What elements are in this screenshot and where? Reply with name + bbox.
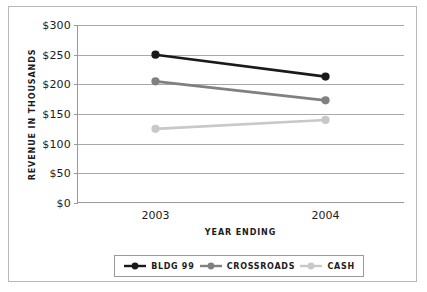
series-crossroads: [151, 77, 329, 104]
y-axis-tick-label: $100: [42, 137, 71, 150]
y-axis-tick-label: $50: [49, 167, 71, 180]
series-cash: [151, 116, 329, 133]
data-point: [151, 51, 159, 59]
series-bldg-99: [151, 51, 329, 81]
legend-marker-icon: [299, 261, 323, 271]
chart-legend: BLDG 99CROSSROADSCASH: [114, 255, 364, 277]
x-axis-tick-label: 2004: [312, 209, 340, 222]
data-point: [151, 125, 159, 133]
x-axis-title: YEAR ENDING: [77, 228, 404, 237]
legend-marker-icon: [199, 261, 223, 271]
data-point: [151, 77, 159, 85]
y-axis-title: REVENUE IN THOUSANDS: [26, 25, 40, 203]
y-axis-tick-label: $200: [42, 78, 71, 91]
y-axis-title-text: REVENUE IN THOUSANDS: [29, 48, 38, 180]
data-point: [321, 73, 329, 81]
series-plot: [77, 25, 404, 203]
y-axis-tick-label: $250: [42, 48, 71, 61]
chart-frame: REVENUE IN THOUSANDS $300$250$200$150$10…: [8, 6, 417, 282]
y-axis-tick: [74, 203, 78, 204]
legend-item[interactable]: BLDG 99: [123, 261, 194, 271]
series-line: [155, 81, 325, 100]
data-point: [321, 96, 329, 104]
legend-label: CASH: [327, 262, 354, 271]
legend-label: BLDG 99: [151, 262, 194, 271]
y-axis-tick-label: $0: [57, 197, 71, 210]
legend-item[interactable]: CASH: [299, 261, 354, 271]
data-point: [321, 116, 329, 124]
legend-label: CROSSROADS: [227, 262, 295, 271]
y-axis-tick-label: $300: [42, 19, 71, 32]
legend-marker-icon: [123, 261, 147, 271]
legend-item[interactable]: CROSSROADS: [199, 261, 295, 271]
x-axis-tick-label: 2003: [141, 209, 169, 222]
y-axis-tick-label: $150: [42, 108, 71, 121]
series-line: [155, 120, 325, 129]
series-line: [155, 55, 325, 77]
